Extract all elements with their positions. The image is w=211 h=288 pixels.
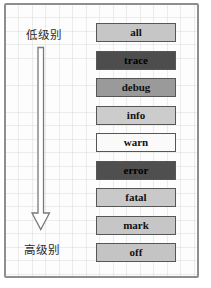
log-levels-diagram: 低级别 高级别 alltracedebuginfowarnerrorfatalm… — [0, 0, 211, 288]
level-box-all: all — [96, 23, 176, 42]
high-level-label: 高级别 — [24, 241, 60, 257]
level-box-warn: warn — [96, 133, 176, 152]
level-box-error: error — [96, 161, 176, 180]
level-box-mark: mark — [96, 216, 176, 235]
level-box-trace: trace — [96, 51, 176, 70]
level-box-info: info — [96, 106, 176, 125]
level-box-fatal: fatal — [96, 188, 176, 207]
level-box-off: off — [96, 243, 176, 262]
level-box-debug: debug — [96, 78, 176, 97]
low-level-label: 低级别 — [26, 26, 62, 42]
down-arrow-icon — [30, 46, 52, 232]
